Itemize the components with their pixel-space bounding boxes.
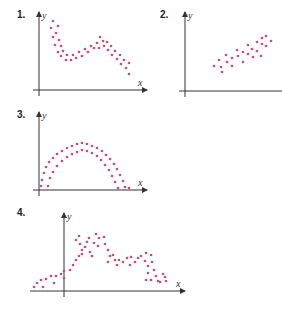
data-point	[60, 273, 63, 276]
x-axis-label: x	[137, 77, 143, 88]
data-point	[144, 260, 147, 263]
data-point	[218, 59, 221, 62]
data-point	[98, 47, 101, 50]
data-point	[118, 259, 121, 262]
data-point	[221, 71, 224, 74]
data-point	[75, 239, 78, 242]
data-point	[247, 44, 250, 47]
data-point	[213, 65, 216, 68]
data-point	[61, 150, 64, 153]
plot-number-label: 4.	[17, 207, 26, 218]
data-point	[265, 35, 268, 38]
data-point	[60, 45, 63, 48]
data-point	[111, 54, 114, 57]
data-point	[231, 57, 234, 60]
data-point	[150, 279, 153, 282]
data-point	[150, 254, 153, 257]
data-point	[58, 39, 61, 42]
data-point	[88, 237, 91, 240]
data-point	[147, 272, 150, 275]
data-point	[108, 169, 111, 172]
data-point	[78, 255, 81, 258]
data-point	[116, 58, 119, 61]
data-point	[96, 147, 99, 150]
data-point	[99, 36, 102, 39]
data-point	[155, 275, 158, 278]
data-point	[57, 51, 60, 54]
data-point	[261, 43, 264, 46]
data-point	[95, 233, 98, 236]
data-point	[60, 55, 63, 58]
data-point	[53, 282, 56, 285]
data-point	[49, 177, 52, 180]
data-point	[70, 59, 73, 62]
data-point	[236, 49, 239, 52]
data-point	[78, 235, 81, 238]
data-point	[260, 55, 263, 58]
data-point	[140, 255, 143, 258]
y-axis-label: y	[41, 110, 47, 121]
data-point	[71, 153, 74, 156]
data-point	[106, 41, 109, 44]
data-point	[112, 254, 115, 257]
data-point	[45, 278, 48, 281]
data-point	[270, 40, 273, 43]
data-point	[147, 265, 150, 268]
data-point	[75, 259, 78, 262]
data-point	[128, 73, 131, 76]
data-point	[114, 259, 117, 262]
data-point	[237, 55, 240, 58]
x-axis-label: x	[137, 177, 143, 188]
data-point	[261, 37, 264, 40]
data-point	[242, 61, 245, 64]
data-point	[220, 66, 223, 69]
data-point	[145, 252, 148, 255]
data-point	[116, 264, 119, 267]
data-point	[52, 36, 55, 39]
data-point	[103, 45, 106, 48]
data-point	[164, 276, 167, 279]
data-point	[55, 275, 58, 278]
data-point	[71, 145, 74, 148]
data-point	[57, 25, 60, 28]
data-point	[119, 54, 122, 57]
data-point	[91, 145, 94, 148]
data-point	[122, 180, 125, 183]
data-point	[54, 44, 57, 47]
data-point	[100, 159, 103, 162]
data-point	[159, 281, 162, 284]
data-point	[116, 168, 119, 171]
data-points	[40, 142, 131, 190]
data-point	[93, 242, 96, 245]
data-point	[81, 253, 84, 256]
y-axis-label: y	[41, 10, 47, 21]
data-points	[33, 233, 168, 289]
data-point	[56, 153, 59, 156]
y-axis-label: y	[187, 10, 193, 21]
data-point	[102, 40, 105, 43]
data-points	[213, 35, 273, 74]
data-point	[91, 255, 94, 258]
data-point	[109, 255, 112, 258]
data-point	[41, 179, 44, 182]
data-point	[62, 50, 65, 53]
plot-number-label: 2.	[160, 9, 169, 20]
data-points	[50, 20, 131, 76]
data-point	[114, 181, 117, 184]
data-point	[72, 264, 75, 267]
data-point	[105, 154, 108, 157]
data-point	[129, 264, 132, 267]
data-point	[52, 171, 55, 174]
data-point	[104, 164, 107, 167]
data-point	[65, 59, 68, 62]
data-point	[50, 275, 53, 278]
data-point	[86, 150, 89, 153]
data-point	[40, 185, 43, 188]
data-point	[78, 51, 81, 54]
data-point	[90, 45, 93, 48]
data-point	[120, 63, 123, 66]
data-point	[247, 53, 250, 56]
data-point	[66, 54, 69, 57]
data-point	[61, 160, 64, 163]
data-point	[96, 42, 99, 45]
